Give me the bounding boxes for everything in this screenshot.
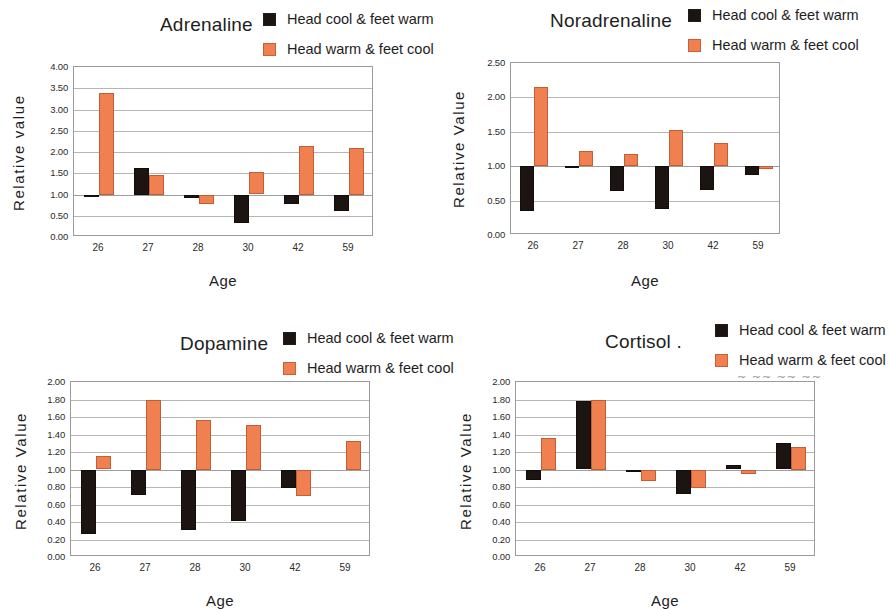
y-tick-mark (515, 522, 516, 523)
x-tick-mark (641, 555, 642, 556)
x-tick-mark (624, 233, 625, 234)
y-tick-label: 3.00 (50, 104, 68, 115)
baseline (516, 470, 814, 471)
x-tick-label: 28 (634, 562, 645, 573)
y-tick-mark (70, 400, 71, 401)
bar-dopamine-26-cool (81, 470, 96, 534)
y-tick-label: 1.80 (492, 394, 510, 405)
chart-title-dopamine: Dopamine (180, 333, 268, 355)
y-tick-label: 1.40 (47, 429, 65, 440)
chart-legend-cortisol: Head cool & feet warmHead warm & feet co… (715, 319, 886, 371)
legend-label: Head warm & feet cool (739, 352, 886, 368)
bar-noradrenaline-27-cool (565, 166, 579, 168)
x-tick-label: 42 (292, 242, 303, 253)
bar-noradrenaline-42-warm (714, 143, 728, 166)
y-tick-mark (70, 505, 71, 506)
y-tick-mark (73, 216, 74, 217)
gridline (71, 505, 369, 506)
y-tick-label: 0.50 (487, 195, 505, 206)
bar-noradrenaline-26-cool (520, 166, 534, 211)
x-tick-label: 26 (92, 242, 103, 253)
x-tick-mark (96, 555, 97, 556)
y-tick-label: 1.80 (47, 394, 65, 405)
x-tick-label: 42 (707, 240, 718, 251)
bar-dopamine-59-warm (346, 441, 361, 470)
x-tick-mark (691, 555, 692, 556)
x-tick-label: 26 (89, 562, 100, 573)
x-tick-label: 27 (142, 242, 153, 253)
y-tick-label: 1.40 (492, 429, 510, 440)
bar-dopamine-27-cool (131, 470, 146, 495)
y-tick-label: 1.50 (50, 167, 68, 178)
x-axis-label-adrenaline: Age (73, 272, 373, 289)
legend-item-head-warm-feet-cool: Head warm & feet cool (688, 34, 859, 56)
gridline (71, 400, 369, 401)
y-tick-labels-adrenaline: 0.000.501.001.502.002.503.003.504.00 (0, 66, 68, 236)
x-tick-label: 28 (617, 240, 628, 251)
y-tick-mark (515, 435, 516, 436)
chart-title-cortisol: Cortisol . (605, 331, 682, 353)
gridline (74, 173, 372, 174)
bar-adrenaline-27-warm (149, 175, 164, 195)
gridline (511, 97, 779, 98)
y-tick-label: 1.60 (492, 411, 510, 422)
legend-label: Head cool & feet warm (287, 11, 434, 27)
y-tick-label: 0.80 (492, 481, 510, 492)
y-tick-label: 0.20 (47, 534, 65, 545)
x-tick-label: 59 (342, 242, 353, 253)
y-tick-label: 1.60 (47, 411, 65, 422)
gridline (516, 400, 814, 401)
y-tick-label: 3.50 (50, 82, 68, 93)
y-tick-mark (73, 88, 74, 89)
chart-panel-dopamine: DopamineHead cool & feet warmHead warm &… (0, 315, 445, 609)
bar-adrenaline-26-warm (99, 93, 114, 195)
x-tick-mark (149, 235, 150, 236)
legend-swatch-orange-icon (688, 39, 701, 52)
bar-cortisol-42-cool (726, 465, 741, 469)
legend-item-head-warm-feet-cool: Head warm & feet cool (263, 38, 434, 60)
gridline (74, 131, 372, 132)
x-tick-label: 59 (339, 562, 350, 573)
gridline (511, 132, 779, 133)
legend-swatch-orange-icon (283, 362, 296, 375)
y-tick-mark (515, 400, 516, 401)
y-tick-mark (70, 417, 71, 418)
y-tick-label: 0.00 (487, 229, 505, 240)
legend-label: Head warm & feet cool (287, 41, 434, 57)
y-tick-mark (515, 505, 516, 506)
y-tick-label: 0.00 (47, 551, 65, 562)
chart-panel-adrenaline: AdrenalineHead cool & feet warmHead warm… (0, 0, 445, 300)
gridline (516, 487, 814, 488)
x-tick-mark (296, 555, 297, 556)
plot-area-dopamine (70, 381, 370, 556)
bar-cortisol-28-warm (641, 470, 656, 481)
bar-cortisol-26-cool (526, 470, 541, 480)
bar-adrenaline-28-warm (199, 195, 214, 204)
bar-adrenaline-42-cool (284, 195, 299, 204)
x-tick-mark (199, 235, 200, 236)
x-tick-label: 59 (784, 562, 795, 573)
bar-dopamine-30-cool (231, 470, 246, 521)
legend-label: Head cool & feet warm (307, 330, 454, 346)
y-tick-label: 0.60 (47, 499, 65, 510)
chart-title-noradrenaline: Noradrenaline (550, 10, 672, 32)
x-tick-label: 30 (239, 562, 250, 573)
y-tick-mark (70, 435, 71, 436)
y-tick-mark (515, 487, 516, 488)
legend-item-head-cool-feet-warm: Head cool & feet warm (715, 319, 886, 341)
bar-noradrenaline-59-cool (745, 166, 759, 175)
bar-noradrenaline-30-warm (669, 130, 683, 166)
x-tick-mark (249, 235, 250, 236)
bar-adrenaline-30-warm (249, 172, 264, 194)
bar-noradrenaline-59-warm (759, 166, 773, 169)
y-tick-label: 0.20 (492, 534, 510, 545)
y-tick-mark (73, 152, 74, 153)
legend-label: Head cool & feet warm (712, 7, 859, 23)
x-tick-label: 27 (572, 240, 583, 251)
gridline (516, 452, 814, 453)
x-tick-mark (246, 555, 247, 556)
gridline (71, 452, 369, 453)
legend-swatch-orange-icon (715, 354, 728, 367)
bar-noradrenaline-28-cool (610, 166, 624, 191)
x-tick-mark (579, 233, 580, 234)
